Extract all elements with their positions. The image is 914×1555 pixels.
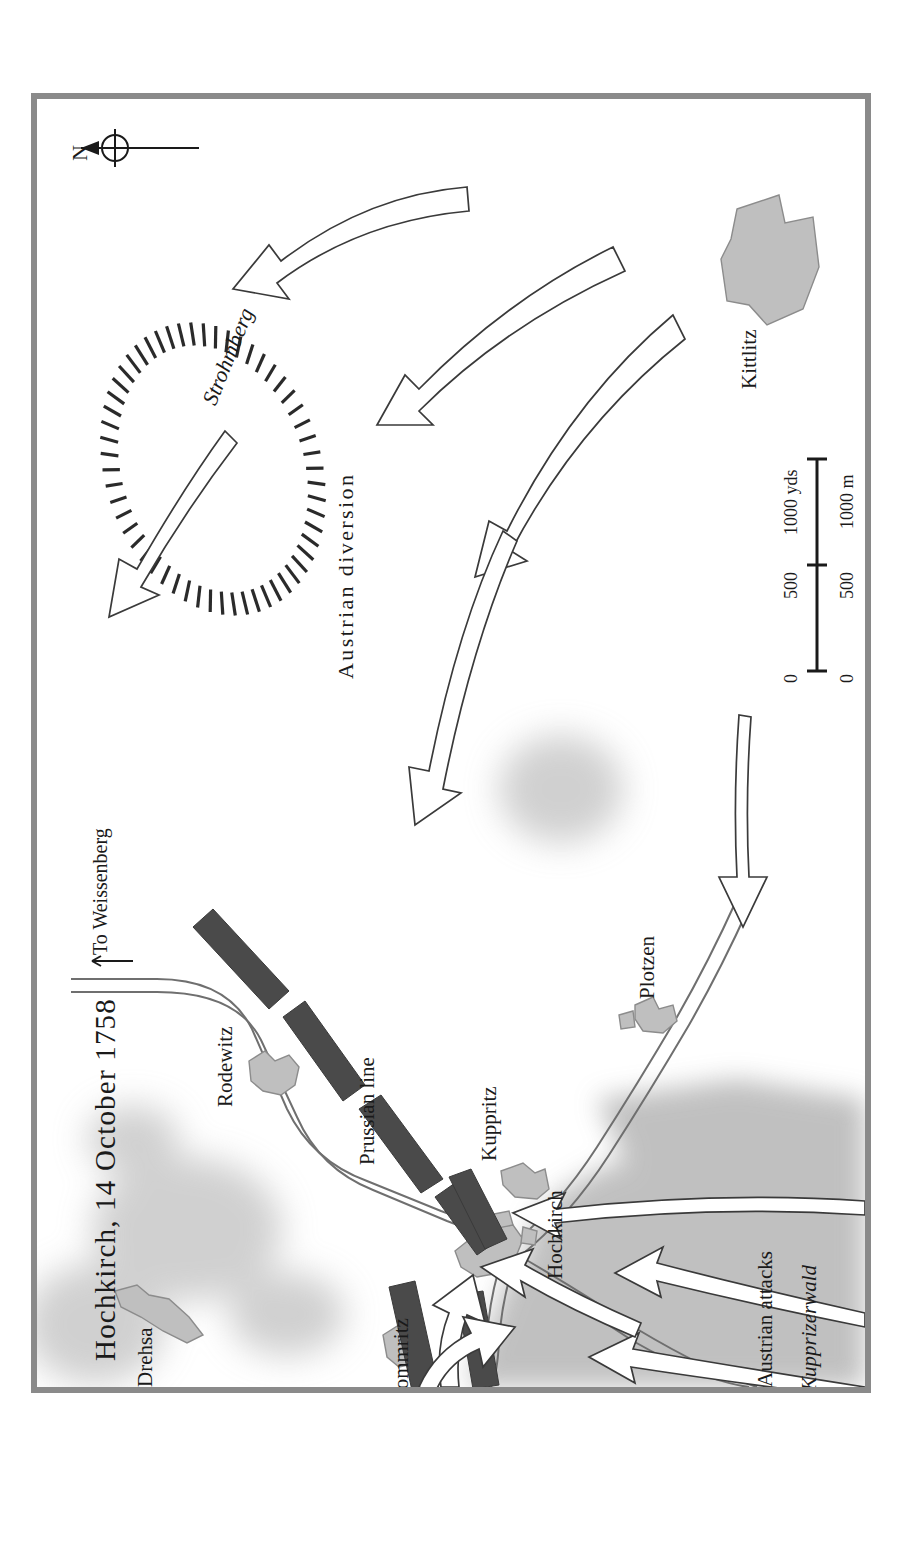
austrian-diversion-arrows: [109, 187, 767, 927]
label-pommritz: Pommritz: [389, 1318, 414, 1393]
label-to-weissenberg: To Weissenberg: [89, 828, 112, 955]
scale-tick-yds-500: 500: [781, 572, 802, 599]
village-hochkirch-outlier-2: [521, 1227, 537, 1245]
scale-bar-icon: [799, 451, 835, 679]
map-title: Hochkirch, 14 October 1758: [89, 998, 122, 1361]
label-austrian-attacks: Austrian attacks: [753, 1251, 778, 1387]
label-hochkirch: Hochkirch: [543, 1190, 568, 1279]
label-kuppritz: Kuppritz: [477, 1086, 502, 1161]
battle-map-figure: Hochkirch, 14 October 1758 N Drehsa Rode…: [0, 0, 914, 1555]
village-kittlitz: [721, 195, 819, 325]
map-canvas: [37, 99, 865, 1387]
road-direction-arrow-icon: [92, 956, 133, 966]
label-kittlitz: Kittlitz: [737, 330, 762, 390]
scale-tick-m-1000: 1000 m: [837, 474, 858, 529]
label-austrian-diversion: Austrian diversion: [333, 473, 359, 679]
label-prussian-line-1: Prussian line: [355, 1057, 380, 1165]
battalion-block: [283, 1001, 365, 1101]
scale-tick-m-500: 500: [837, 572, 858, 599]
scale-tick-m-0: 0: [837, 674, 858, 683]
label-plotzen: Plotzen: [635, 936, 660, 999]
village-plotzen-outlier: [619, 1011, 635, 1029]
north-arrow-icon: [77, 121, 207, 175]
scale-tick-yds-0: 0: [781, 674, 802, 683]
village-rodewitz: [249, 1051, 299, 1095]
battalion-block: [193, 909, 289, 1009]
label-drehsa: Drehsa: [133, 1328, 158, 1387]
label-rodewitz: Rodewitz: [213, 1027, 238, 1107]
village-kuppritz: [501, 1163, 549, 1199]
label-kupprizerwald: Kupprizerwald: [797, 1265, 822, 1391]
scale-tick-yds-1000: 1000 yds: [781, 469, 802, 535]
map-frame: Hochkirch, 14 October 1758 N Drehsa Rode…: [31, 93, 871, 1393]
